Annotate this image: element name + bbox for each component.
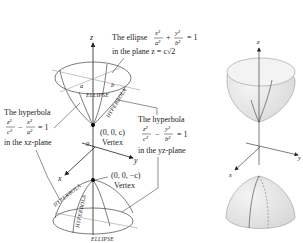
y-axis-label: y: [133, 156, 138, 165]
ellipse-plus: +: [166, 33, 171, 42]
vertex-top-coords: (0, 0, c): [100, 128, 125, 137]
x-axis-label: x: [57, 174, 62, 183]
xz-annotation-title: The hyperbola: [4, 108, 51, 117]
ellipse-annotation-prefix: The ellipse: [112, 33, 148, 42]
right-y-axis: [246, 143, 298, 155]
xz-frac2-num: x²: [26, 118, 33, 125]
vertex-top-label: Vertex: [102, 138, 123, 147]
xz-hyperbola-annotation: The hyperbola z² c² − x² a² = 1 in the x…: [4, 103, 80, 200]
xz-frac2-den: a²: [27, 128, 33, 135]
left-diagram: z y x 0 a b ELLIPSE HYPERBOLA (0, 0, c) …: [4, 29, 198, 242]
xz-annotation-plane: in the xz-plane: [4, 138, 52, 147]
z-axis-label: z: [89, 33, 94, 42]
xz-frac1-den: c²: [7, 128, 13, 135]
yz-frac1-den: c²: [143, 135, 149, 142]
right-upper-rim: [227, 58, 295, 86]
yz-annotation-title: The hyperbola: [138, 115, 185, 124]
ellipse-frac1-num: x²: [154, 29, 161, 36]
curve-label-ellipse-top: ELLIPSE: [85, 92, 109, 98]
right-x-axis-label: x: [228, 171, 232, 178]
yz-equals: = 1: [177, 130, 188, 139]
vertex-bottom-coords: (0, 0, −c): [111, 171, 141, 180]
ellipse-frac1-den: a²: [155, 39, 161, 46]
yz-hyperbola-annotation: The hyperbola z² c² − y² b² = 1 in the y…: [118, 100, 188, 212]
yz-frac1-num: z²: [142, 125, 149, 132]
yz-frac2-num: y²: [164, 125, 171, 132]
vertex-bottom-dot: [91, 178, 95, 182]
right-diagram: z y x: [226, 38, 301, 229]
right-y-axis-label: y: [297, 154, 301, 161]
right-x-axis: [235, 147, 260, 170]
right-lower-sheet: [226, 176, 295, 229]
vertex-bottom-label: Vertex: [114, 181, 135, 190]
vertex-top-dot: [91, 123, 95, 127]
hyperboloid-diagram: z y x 0 a b ELLIPSE HYPERBOLA (0, 0, c) …: [0, 0, 303, 243]
curve-label-hyperbola-bottom-2: HYPERBOLA: [74, 194, 87, 229]
yz-annotation-plane: in the yz-plane: [138, 146, 186, 155]
ellipse-annotation: The ellipse x² a² + y² b² = 1 in the pla…: [112, 29, 198, 73]
ellipse-frac2-den: b²: [175, 39, 181, 46]
right-z-axis-label: z: [256, 38, 260, 45]
semi-axis-a: a: [80, 82, 83, 89]
yz-frac2-den: b²: [165, 135, 171, 142]
ellipse-annotation-plane: in the plane z = c√2: [112, 47, 175, 56]
ellipse-frac2-num: y²: [174, 29, 181, 36]
xz-frac1-num: z²: [6, 118, 13, 125]
curve-label-ellipse-bottom: ELLIPSE: [90, 236, 114, 242]
origin-label: 0: [86, 140, 90, 147]
curve-label-hyperbola-bottom-1: HYPERBOLA: [51, 182, 82, 208]
yz-minus: −: [155, 130, 160, 139]
x-axis: [65, 147, 95, 175]
semi-axis-b: b: [111, 81, 115, 88]
xz-equals: = 1: [38, 123, 49, 132]
ellipse-equals: = 1: [187, 33, 198, 42]
xz-minus: −: [18, 123, 23, 132]
